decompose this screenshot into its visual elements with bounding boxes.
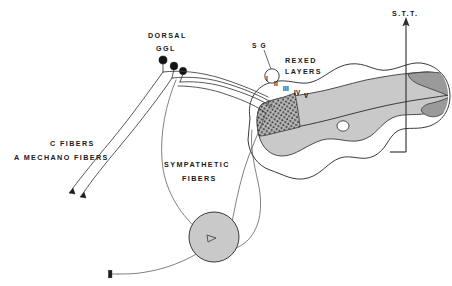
drg-cell-body-1: [159, 56, 167, 64]
rexed-numeral-IV: IV: [294, 89, 301, 96]
drg-stem-2: [172, 69, 174, 78]
label-a-mechano-fibers: A MECHANO FIBERS: [14, 153, 109, 162]
spinal-cord-section: [248, 63, 451, 179]
rexed-numeral-V: V: [304, 92, 309, 99]
label-c-fibers: C FIBERS: [50, 139, 95, 148]
c-fiber-terminal: [69, 188, 75, 194]
label-sg: S G: [252, 42, 267, 49]
label-stt: S.T.T.: [392, 9, 418, 18]
drg-stem-3: [180, 74, 183, 82]
central-canal: [337, 121, 349, 131]
peripheral-sensory-fibers: [69, 72, 172, 198]
sg-leader-line: [264, 50, 271, 69]
a-mechano-fiber-path: [84, 78, 172, 192]
label-dorsal-ggl-line1: DORSAL: [148, 31, 187, 40]
anatomy-diagram: DORSAL GGL C FIBERS A MECHANO FIBERS SYM…: [0, 0, 452, 286]
drg-cell-body-2: [170, 62, 178, 70]
a-mechano-fiber-terminal: [80, 192, 86, 198]
rexed-numeral-II: II: [274, 80, 278, 87]
sympathetic-descending-limb: [162, 80, 198, 230]
sympathetic-terminal-bar: [109, 270, 112, 277]
label-dorsal-ggl-line2: GGL: [156, 44, 176, 53]
c-fiber-path: [73, 72, 163, 188]
label-rexed-line1: REXED: [285, 56, 317, 65]
rexed-numeral-III: III: [283, 85, 289, 92]
label-sympathetic-line2: FIBERS: [182, 174, 217, 183]
label-leader-lines: [264, 50, 271, 69]
label-sympathetic-line1: SYMPATHETIC: [164, 160, 230, 169]
label-rexed-line2: LAYERS: [285, 67, 322, 76]
spinal-cord-pathway-figure: DORSAL GGL C FIBERS A MECHANO FIBERS SYM…: [0, 0, 452, 286]
rexed-numeral-I: I: [266, 75, 268, 82]
